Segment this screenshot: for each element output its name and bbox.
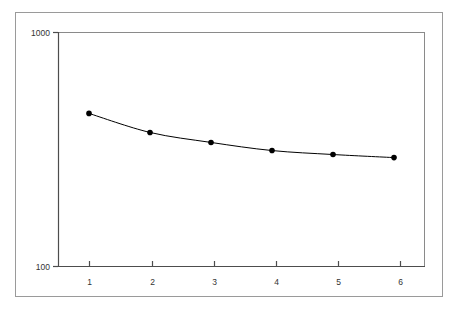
- data-point-2: [147, 130, 153, 136]
- data-point-4: [269, 148, 275, 154]
- data-series-line: [89, 113, 394, 157]
- chart-figure: 1000 100 1 2 3 4 5 6: [0, 0, 457, 312]
- x-tick-label-6: 6: [398, 277, 403, 287]
- y-tick-label-100: 100: [36, 262, 50, 272]
- x-tick-label-1: 1: [87, 277, 92, 287]
- data-point-5: [330, 152, 336, 158]
- plot-canvas: 1000 100 1 2 3 4 5 6: [0, 0, 457, 312]
- x-tick-label-4: 4: [274, 277, 279, 287]
- x-tick-label-3: 3: [212, 277, 217, 287]
- x-tick-label-2: 2: [150, 277, 155, 287]
- data-point-6: [391, 155, 397, 161]
- data-point-3: [208, 140, 214, 146]
- plot-area-frame: [58, 32, 425, 266]
- data-point-1: [86, 111, 92, 117]
- data-point-markers: [86, 111, 397, 161]
- y-axis-ticks: [53, 33, 58, 267]
- y-tick-label-1000: 1000: [31, 28, 50, 38]
- x-tick-label-5: 5: [336, 277, 341, 287]
- x-axis-ticks: [90, 261, 401, 266]
